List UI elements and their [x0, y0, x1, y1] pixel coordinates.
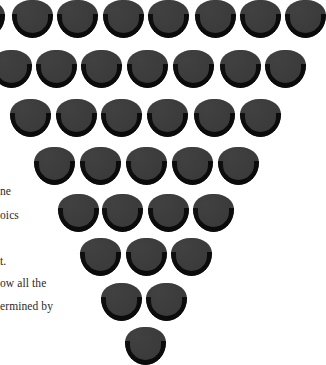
rounded-blob-shape — [195, 0, 236, 38]
rounded-blob-shape — [194, 99, 235, 137]
rounded-blob-shape — [147, 99, 188, 137]
rounded-blob-shape — [173, 50, 214, 88]
rounded-blob-shape — [218, 147, 259, 185]
text-line: ermined by — [0, 300, 53, 312]
rounded-blob-shape — [81, 50, 122, 88]
text-line: t. — [0, 255, 6, 267]
rounded-blob-shape — [34, 147, 75, 185]
rounded-blob-shape — [126, 238, 167, 276]
rounded-blob-shape — [148, 194, 189, 232]
rounded-blob-shape — [220, 50, 261, 88]
text-line: ow all the — [0, 277, 46, 289]
rounded-blob-shape — [125, 327, 166, 365]
text-line: oics — [0, 209, 19, 221]
rounded-blob-shape — [102, 194, 143, 232]
rounded-blob-shape — [103, 0, 144, 38]
rounded-blob-shape — [240, 99, 281, 137]
rounded-blob-shape — [285, 0, 326, 38]
rounded-blob-shape — [56, 99, 97, 137]
rounded-blob-shape — [80, 238, 121, 276]
rounded-blob-shape — [171, 238, 212, 276]
text-line: ne — [0, 185, 11, 197]
rounded-blob-shape — [57, 0, 98, 38]
rounded-blob-shape — [0, 0, 5, 38]
rounded-blob-shape — [172, 147, 213, 185]
rounded-blob-shape — [101, 99, 142, 137]
rounded-blob-shape — [146, 283, 187, 321]
rounded-blob-shape — [80, 147, 121, 185]
rounded-blob-shape — [240, 0, 281, 38]
rounded-blob-shape — [127, 50, 168, 88]
rounded-blob-shape — [10, 99, 51, 137]
rounded-blob-shape — [148, 0, 189, 38]
rounded-blob-shape — [126, 147, 167, 185]
rounded-blob-shape — [0, 50, 32, 88]
rounded-blob-shape — [101, 283, 142, 321]
rounded-blob-shape — [36, 50, 77, 88]
rounded-blob-shape — [58, 194, 99, 232]
rounded-blob-shape — [265, 50, 306, 88]
rounded-blob-shape — [193, 194, 234, 232]
rounded-blob-shape — [12, 0, 53, 38]
